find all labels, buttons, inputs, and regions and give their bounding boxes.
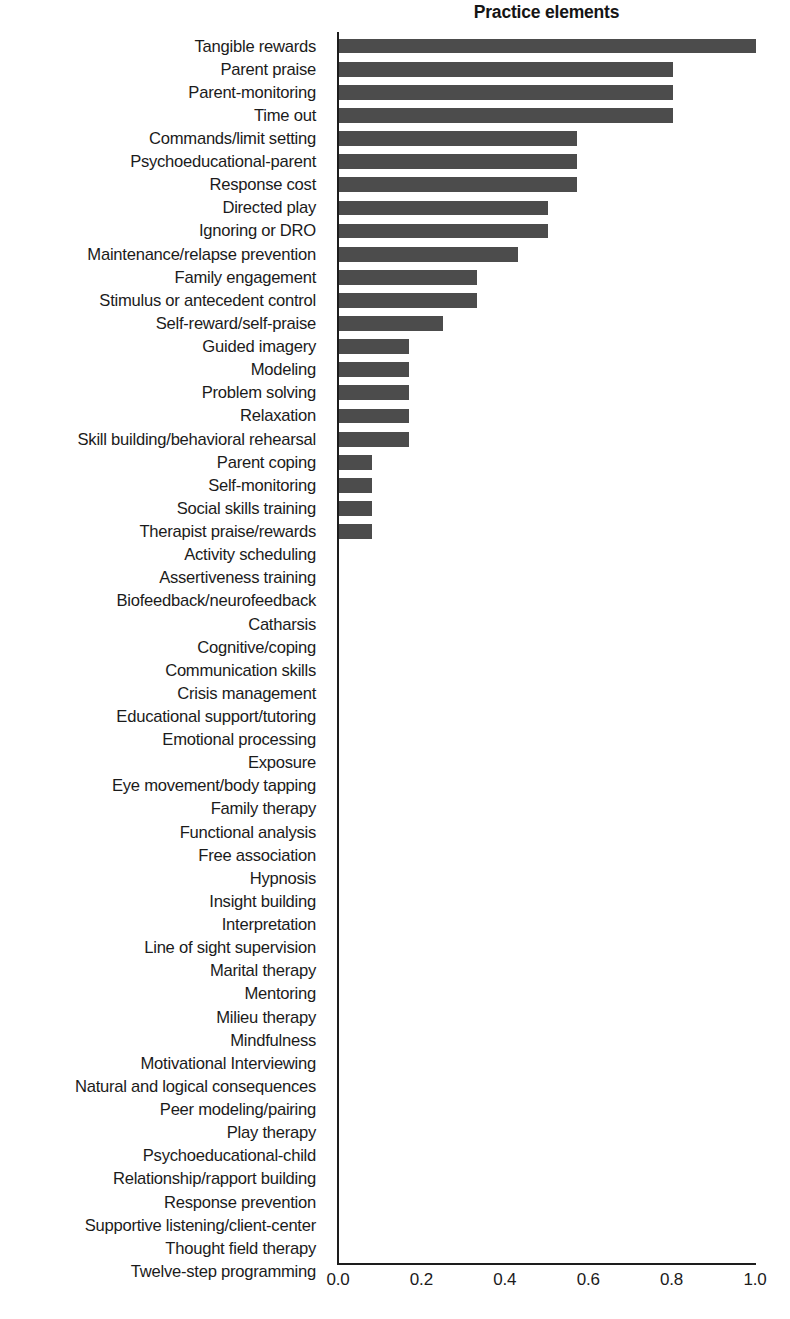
bar-row: Parent praise xyxy=(0,58,790,81)
category-label: Therapist praise/rewards xyxy=(0,520,316,543)
bar-track xyxy=(339,1121,756,1144)
category-label: Natural and logical consequences xyxy=(0,1075,316,1098)
bar-track xyxy=(339,589,756,612)
category-label: Functional analysis xyxy=(0,821,316,844)
x-tick-label: 1.0 xyxy=(715,1270,790,1290)
category-label: Tangible rewards xyxy=(0,35,316,58)
bar xyxy=(339,478,372,493)
bar-row: Free association xyxy=(0,844,790,867)
bar-track xyxy=(339,127,756,150)
bar-row: Self-monitoring xyxy=(0,474,790,497)
category-label: Self-reward/self-praise xyxy=(0,312,316,335)
category-label: Play therapy xyxy=(0,1121,316,1144)
category-label: Milieu therapy xyxy=(0,1006,316,1029)
bar-row: Play therapy xyxy=(0,1121,790,1144)
bar xyxy=(339,501,372,516)
x-tick-label: 0.8 xyxy=(632,1270,712,1290)
bar xyxy=(339,39,756,54)
category-label: Motivational Interviewing xyxy=(0,1052,316,1075)
bar-row: Supportive listening/client-center xyxy=(0,1214,790,1237)
category-label: Relaxation xyxy=(0,404,316,427)
category-label: Stimulus or antecedent control xyxy=(0,289,316,312)
bar-track xyxy=(339,358,756,381)
category-label: Thought field therapy xyxy=(0,1237,316,1260)
bar xyxy=(339,201,548,216)
category-label: Communication skills xyxy=(0,659,316,682)
category-label: Educational support/tutoring xyxy=(0,705,316,728)
bar-track xyxy=(339,173,756,196)
bar-track xyxy=(339,705,756,728)
bar-row: Functional analysis xyxy=(0,821,790,844)
bar xyxy=(339,409,409,424)
bar-row: Cognitive/coping xyxy=(0,636,790,659)
bar xyxy=(339,177,577,192)
bar-track xyxy=(339,150,756,173)
bar-row: Emotional processing xyxy=(0,728,790,751)
bar-track xyxy=(339,1191,756,1214)
bar-track xyxy=(339,613,756,636)
x-tick-label: 0.2 xyxy=(381,1270,461,1290)
bar-track xyxy=(339,1029,756,1052)
bar-row: Relationship/rapport building xyxy=(0,1167,790,1190)
bar-track xyxy=(339,959,756,982)
category-label: Crisis management xyxy=(0,682,316,705)
bar-row: Peer modeling/pairing xyxy=(0,1098,790,1121)
bar-row: Mindfulness xyxy=(0,1029,790,1052)
bar-row: Commands/limit setting xyxy=(0,127,790,150)
category-label: Self-monitoring xyxy=(0,474,316,497)
bar xyxy=(339,455,372,470)
bar-row: Self-reward/self-praise xyxy=(0,312,790,335)
bar-track xyxy=(339,774,756,797)
bar-row: Communication skills xyxy=(0,659,790,682)
bar xyxy=(339,524,372,539)
bar-row: Catharsis xyxy=(0,613,790,636)
bar-row: Exposure xyxy=(0,751,790,774)
bar-track xyxy=(339,104,756,127)
bar-track xyxy=(339,566,756,589)
category-label: Eye movement/body tapping xyxy=(0,774,316,797)
bar-track xyxy=(339,289,756,312)
category-label: Activity scheduling xyxy=(0,543,316,566)
bar-row: Thought field therapy xyxy=(0,1237,790,1260)
bar-track xyxy=(339,913,756,936)
bar-track xyxy=(339,1006,756,1029)
category-label: Parent coping xyxy=(0,451,316,474)
bar xyxy=(339,224,548,239)
bar-track xyxy=(339,543,756,566)
bar-track xyxy=(339,659,756,682)
x-tick-label: 0.6 xyxy=(548,1270,628,1290)
bar-row: Eye movement/body tapping xyxy=(0,774,790,797)
category-label: Twelve-step programming xyxy=(0,1260,316,1283)
category-label: Social skills training xyxy=(0,497,316,520)
category-label: Mentoring xyxy=(0,982,316,1005)
bar-track xyxy=(339,751,756,774)
bar-track xyxy=(339,867,756,890)
bar-track xyxy=(339,682,756,705)
bar xyxy=(339,270,477,285)
category-label: Guided imagery xyxy=(0,335,316,358)
bar-track xyxy=(339,520,756,543)
category-label: Mindfulness xyxy=(0,1029,316,1052)
bar-track xyxy=(339,474,756,497)
bar-row: Response prevention xyxy=(0,1191,790,1214)
bar xyxy=(339,154,577,169)
category-label: Commands/limit setting xyxy=(0,127,316,150)
bar-row: Psychoeducational-parent xyxy=(0,150,790,173)
chart-title: Practice elements xyxy=(338,2,755,23)
x-tick-label: 0.0 xyxy=(298,1270,378,1290)
category-label: Directed play xyxy=(0,196,316,219)
bar-track xyxy=(339,312,756,335)
category-label: Family engagement xyxy=(0,266,316,289)
bar-track xyxy=(339,196,756,219)
bar xyxy=(339,316,443,331)
category-label: Psychoeducational-parent xyxy=(0,150,316,173)
bar-row: Tangible rewards xyxy=(0,35,790,58)
bar-row: Interpretation xyxy=(0,913,790,936)
bar-row: Time out xyxy=(0,104,790,127)
category-label: Parent-monitoring xyxy=(0,81,316,104)
bar-row: Assertiveness training xyxy=(0,566,790,589)
bar-track xyxy=(339,58,756,81)
bar-row: Skill building/behavioral rehearsal xyxy=(0,428,790,451)
category-label: Modeling xyxy=(0,358,316,381)
category-label: Skill building/behavioral rehearsal xyxy=(0,428,316,451)
